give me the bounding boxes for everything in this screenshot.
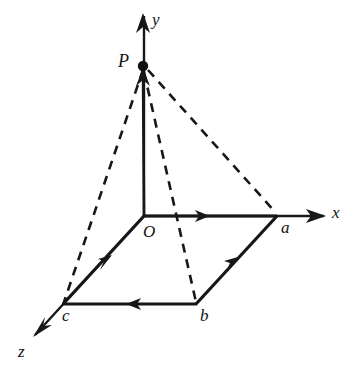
edge-b-to-a	[196, 216, 277, 304]
vector-diagram-svg	[0, 0, 351, 376]
dashed-line-p-to-c	[64, 70, 143, 302]
axis-label-y: y	[152, 11, 160, 28]
figure-canvas: x y z O P a b c	[0, 0, 351, 376]
point-label-p: P	[118, 52, 129, 70]
vector-arrowheads-group	[98, 68, 238, 310]
vector-o-to-p	[143, 70, 144, 216]
point-label-c: c	[62, 307, 70, 324]
point-label-o: O	[143, 223, 155, 240]
dashed-line-p-to-a	[148, 70, 276, 213]
point-label-a: a	[281, 219, 290, 236]
axis-label-z: z	[18, 343, 25, 360]
point-dot-p	[138, 61, 148, 71]
dashed-line-p-to-b	[144, 72, 196, 302]
point-label-b: b	[200, 307, 209, 324]
axis-label-x: x	[332, 204, 340, 221]
